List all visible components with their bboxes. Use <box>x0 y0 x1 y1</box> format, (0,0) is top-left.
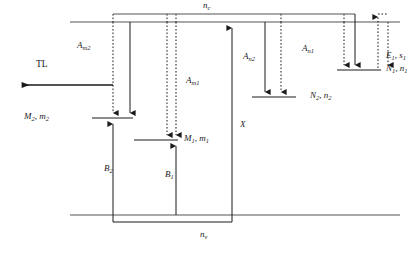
label-nv: nv <box>200 230 207 239</box>
transition-An2 <box>265 22 281 92</box>
transition-An1 <box>344 22 355 65</box>
label-TL: TL <box>36 60 48 70</box>
diagram-canvas: nc nv TL Am2 Am1 An2 An1 B2 B1 X M2, m2 … <box>0 0 418 255</box>
label-M2-m2: M2, m2 <box>24 112 49 121</box>
transition-X <box>113 28 232 222</box>
label-X: X <box>240 120 246 129</box>
top-connector-rails <box>113 14 355 22</box>
label-N2-n2: N2, n2 <box>310 91 332 100</box>
transition-Am2 <box>113 22 130 113</box>
transition-Am1 <box>167 22 176 135</box>
label-B1: B1 <box>165 170 174 179</box>
label-Am1: Am1 <box>186 76 199 85</box>
label-Am2: Am2 <box>77 41 90 50</box>
label-An1: An1 <box>302 44 314 53</box>
energy-band-diagram-svg <box>0 0 418 255</box>
label-N1-n1: N1, n1 <box>386 64 408 73</box>
label-B2: B2 <box>104 164 113 173</box>
label-M1-m1: M1, m1 <box>184 134 209 143</box>
label-E1-s1: E1, s1 <box>386 51 406 60</box>
label-nc: nc <box>203 1 210 10</box>
label-An2: An2 <box>243 52 255 61</box>
